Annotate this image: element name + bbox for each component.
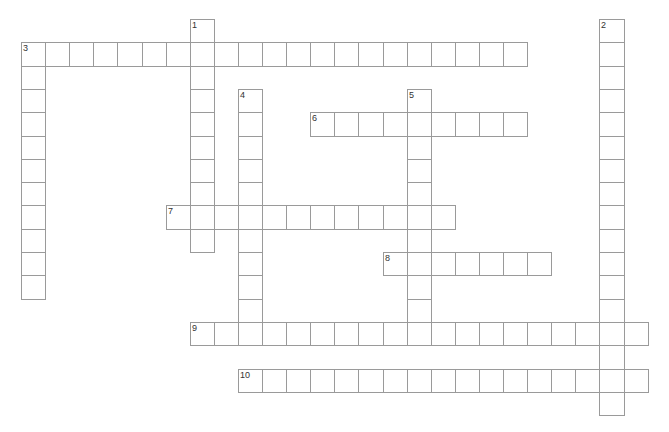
crossword-cell[interactable] (238, 136, 263, 160)
crossword-cell[interactable] (383, 322, 408, 346)
crossword-cell[interactable] (262, 369, 287, 393)
crossword-cell[interactable] (455, 252, 480, 276)
crossword-cell[interactable] (407, 369, 432, 393)
crossword-cell[interactable]: 5 (407, 89, 432, 113)
crossword-cell[interactable] (190, 159, 215, 183)
crossword-cell[interactable] (407, 229, 432, 253)
crossword-cell[interactable] (238, 42, 263, 67)
crossword-cell[interactable] (503, 112, 528, 137)
crossword-cell[interactable] (238, 229, 263, 253)
crossword-cell[interactable] (599, 299, 625, 323)
crossword-cell[interactable]: 10 (238, 369, 263, 393)
crossword-cell[interactable] (334, 205, 359, 230)
crossword-cell[interactable] (431, 322, 456, 346)
crossword-cell[interactable] (575, 369, 600, 393)
crossword-cell[interactable] (214, 322, 239, 346)
crossword-cell[interactable] (358, 42, 384, 67)
crossword-cell[interactable] (334, 42, 359, 67)
crossword-cell[interactable] (310, 369, 335, 393)
crossword-cell[interactable] (599, 42, 625, 67)
crossword-cell[interactable] (624, 322, 649, 346)
crossword-cell[interactable] (358, 322, 384, 346)
crossword-cell[interactable] (407, 182, 432, 206)
crossword-cell[interactable] (262, 205, 287, 230)
crossword-cell[interactable] (431, 205, 456, 230)
crossword-cell[interactable] (407, 136, 432, 160)
crossword-cell[interactable] (21, 229, 46, 253)
crossword-cell[interactable]: 6 (310, 112, 335, 137)
crossword-cell[interactable] (599, 275, 625, 300)
crossword-cell[interactable] (599, 136, 625, 160)
crossword-cell[interactable] (190, 66, 215, 90)
crossword-cell[interactable] (358, 205, 384, 230)
crossword-cell[interactable] (238, 159, 263, 183)
crossword-cell[interactable] (431, 42, 456, 67)
crossword-cell[interactable] (503, 252, 528, 276)
crossword-cell[interactable] (238, 252, 263, 276)
crossword-cell[interactable] (503, 42, 528, 67)
crossword-cell[interactable] (358, 369, 384, 393)
crossword-cell[interactable] (358, 112, 384, 137)
crossword-cell[interactable] (334, 369, 359, 393)
crossword-cell[interactable]: 2 (599, 19, 625, 43)
crossword-cell[interactable] (599, 89, 625, 113)
crossword-cell[interactable] (479, 42, 504, 67)
crossword-cell[interactable] (238, 299, 263, 323)
crossword-cell[interactable] (238, 182, 263, 206)
crossword-cell[interactable] (21, 66, 46, 90)
crossword-cell[interactable] (527, 322, 552, 346)
crossword-cell[interactable] (599, 392, 625, 416)
crossword-cell[interactable] (599, 252, 625, 276)
crossword-cell[interactable] (21, 89, 46, 113)
crossword-cell[interactable] (479, 112, 504, 137)
crossword-cell[interactable] (21, 275, 46, 300)
crossword-cell[interactable] (21, 159, 46, 183)
crossword-cell[interactable] (599, 159, 625, 183)
crossword-cell[interactable] (503, 322, 528, 346)
crossword-cell[interactable] (479, 369, 504, 393)
crossword-cell[interactable] (599, 205, 625, 230)
crossword-cell[interactable] (334, 112, 359, 137)
crossword-cell[interactable] (214, 42, 239, 67)
crossword-cell[interactable] (310, 322, 335, 346)
crossword-cell[interactable] (45, 42, 70, 67)
crossword-cell[interactable] (407, 252, 432, 276)
crossword-cell[interactable] (310, 42, 335, 67)
crossword-cell[interactable] (599, 229, 625, 253)
crossword-cell[interactable] (190, 112, 215, 137)
crossword-cell[interactable] (238, 112, 263, 137)
crossword-cell[interactable] (238, 322, 263, 346)
crossword-cell[interactable] (431, 369, 456, 393)
crossword-cell[interactable] (455, 112, 480, 137)
crossword-cell[interactable] (21, 182, 46, 206)
crossword-cell[interactable] (190, 136, 215, 160)
crossword-cell[interactable] (21, 205, 46, 230)
crossword-cell[interactable] (431, 252, 456, 276)
crossword-cell[interactable] (527, 369, 552, 393)
crossword-cell[interactable] (214, 205, 239, 230)
crossword-cell[interactable] (21, 252, 46, 276)
crossword-cell[interactable] (190, 182, 215, 206)
crossword-cell[interactable] (190, 205, 215, 230)
crossword-cell[interactable] (383, 369, 408, 393)
crossword-cell[interactable] (599, 345, 625, 370)
crossword-cell[interactable] (599, 322, 625, 346)
crossword-cell[interactable] (238, 275, 263, 300)
crossword-cell[interactable] (407, 299, 432, 323)
crossword-cell[interactable] (431, 112, 456, 137)
crossword-cell[interactable] (479, 252, 504, 276)
crossword-cell[interactable] (407, 112, 432, 137)
crossword-cell[interactable] (455, 322, 480, 346)
crossword-cell[interactable] (599, 182, 625, 206)
crossword-cell[interactable] (599, 112, 625, 137)
crossword-cell[interactable] (310, 205, 335, 230)
crossword-cell[interactable] (117, 42, 143, 67)
crossword-cell[interactable] (407, 42, 432, 67)
crossword-cell[interactable] (286, 205, 311, 230)
crossword-cell[interactable] (599, 66, 625, 90)
crossword-cell[interactable] (166, 42, 191, 67)
crossword-cell[interactable] (551, 369, 576, 393)
crossword-cell[interactable] (624, 369, 649, 393)
crossword-cell[interactable] (142, 42, 167, 67)
crossword-cell[interactable] (21, 112, 46, 137)
